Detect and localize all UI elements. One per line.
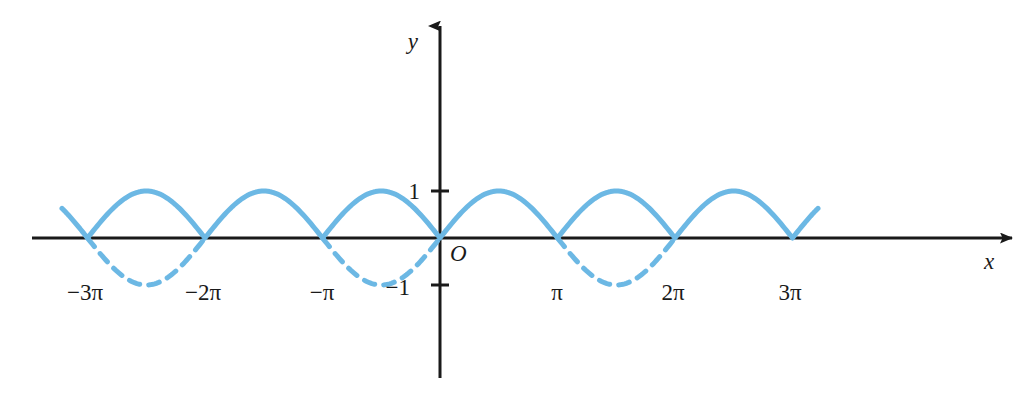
x-tick-label-2pi: 2π [661,281,684,304]
sine-dashed-arc [558,238,676,285]
sine-dashed-arc [88,238,206,285]
sine-dashed-arc [323,238,441,285]
y-tick-label-one: 1 [409,180,421,203]
y-tick-label-negone: −1 [386,276,410,299]
x-tick-label-3pi: 3π [778,281,801,304]
coordinate-plane-svg [0,0,1023,398]
x-axis-label: x [984,250,994,273]
x-tick-label-pi: π [551,281,563,304]
sine-dashed-curves [88,238,676,285]
graph-canvas: y x O −3π−2π−ππ2π3π 1−1 [0,0,1023,398]
origin-label: O [450,242,467,265]
x-tick-label-neg3pi: −3π [67,281,103,304]
x-tick-label-negpi: −π [310,281,335,304]
y-axis-label: y [408,30,418,53]
x-tick-label-neg2pi: −2π [185,281,221,304]
